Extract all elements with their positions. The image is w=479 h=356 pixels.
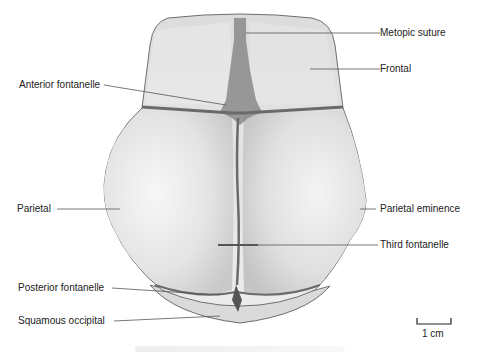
label-third-fontanelle: Third fontanelle (380, 239, 449, 251)
label-anterior-fontanelle: Anterior fontanelle (19, 79, 100, 91)
label-metopic-suture: Metopic suture (380, 27, 446, 39)
label-squamous-occipital: Squamous occipital (18, 315, 105, 327)
scale-bar-label: 1 cm (422, 328, 444, 339)
left-parietal-bone (104, 110, 234, 296)
scale-bar (417, 318, 451, 324)
label-posterior-fontanelle: Posterior fontanelle (18, 282, 104, 294)
skull-illustration (0, 0, 479, 356)
label-parietal-eminence: Parietal eminence (380, 203, 460, 215)
label-parietal: Parietal (17, 203, 51, 215)
right-parietal-bone (243, 110, 367, 295)
figure-caption-faded (135, 346, 345, 352)
label-frontal: Frontal (380, 63, 411, 75)
skull-diagram: Metopic suture Frontal Anterior fontanel… (0, 0, 479, 356)
